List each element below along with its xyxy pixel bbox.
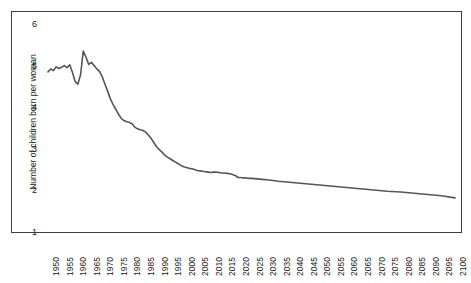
series-line-layer — [0, 0, 471, 283]
fertility-rate-line — [48, 51, 455, 198]
fertility-rate-chart: Number of children born per woman 654321… — [0, 0, 471, 283]
